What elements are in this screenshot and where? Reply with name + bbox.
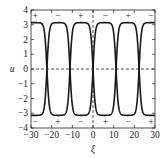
- y-tick-label: 3: [23, 20, 28, 30]
- x-tick-label: 10: [109, 130, 119, 140]
- sign-annotation: +: [55, 117, 60, 127]
- y-tick-label: 2: [23, 35, 28, 45]
- y-tick-label: −3: [18, 108, 28, 118]
- y-tick-label: 0: [23, 64, 28, 74]
- sign-annotation: −: [32, 117, 37, 127]
- sign-annotation: +: [125, 11, 130, 21]
- sign-annotation: −: [55, 11, 60, 21]
- sign-annotation: +: [148, 117, 153, 127]
- y-tick-label: 1: [23, 49, 28, 59]
- sign-annotation: +: [103, 117, 108, 127]
- x-axis-label: ξ: [91, 144, 96, 155]
- y-axis-label: u: [10, 64, 15, 74]
- y-tick-label: 4: [23, 5, 28, 15]
- y-tick-label: −4: [18, 123, 28, 133]
- plot-area: −30−20−10010203043210−1−2−3−4ξu+−+−+−−+−…: [10, 5, 160, 155]
- sign-annotation: −: [103, 11, 108, 21]
- x-tick-label: 30: [150, 130, 160, 140]
- sign-annotation: −: [148, 11, 153, 21]
- chart: −30−20−10010203043210−1−2−3−4ξu+−+−+−−+−…: [0, 0, 163, 158]
- sign-annotation: −: [78, 117, 83, 127]
- x-tick-label: 0: [91, 130, 96, 140]
- sign-annotation: −: [125, 117, 130, 127]
- y-tick-label: −2: [18, 94, 28, 104]
- sign-annotation: +: [32, 11, 37, 21]
- x-tick-label: 20: [130, 130, 140, 140]
- sign-annotation: +: [78, 11, 83, 21]
- x-tick-label: −10: [65, 130, 80, 140]
- x-tick-label: −20: [44, 130, 59, 140]
- y-tick-label: −1: [18, 79, 28, 89]
